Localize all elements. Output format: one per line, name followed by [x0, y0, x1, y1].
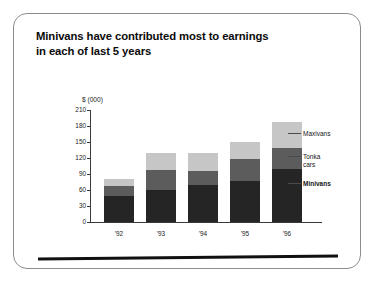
y-tick-label: 0: [64, 219, 86, 225]
bar-segment-maxivans: [272, 122, 302, 149]
stacked-bar-chart: $ (000) 2101801501209060300 '92'93'94'95…: [60, 96, 360, 236]
bar-94: [188, 153, 218, 222]
legend-label-minivans: Minivans: [303, 180, 331, 188]
x-tick-label: '94: [188, 230, 218, 237]
bar-segment-maxivans: [230, 142, 260, 159]
bar-segment-tonka-cars: [104, 186, 134, 197]
legend-leader-tonka: [288, 156, 301, 157]
y-tick-mark: [87, 142, 90, 143]
bar-segment-maxivans: [146, 153, 176, 170]
x-tick-label: '93: [146, 230, 176, 237]
bar-segment-tonka-cars: [272, 148, 302, 168]
bar-95: [230, 142, 260, 222]
y-tick-label: 90: [64, 171, 86, 177]
legend-tonka-line-2: cars: [303, 161, 315, 168]
bar-segment-minivans: [230, 181, 260, 222]
y-tick-mark: [87, 206, 90, 207]
legend-tonka-line-1: Tonka: [303, 153, 320, 160]
legend-leader-minivans: [288, 183, 301, 184]
plot-area: 2101801501209060300 '92'93'94'95'96: [90, 110, 320, 222]
y-tick-mark: [87, 190, 90, 191]
bar-segment-tonka-cars: [146, 170, 176, 190]
y-tick-mark: [87, 222, 90, 223]
legend-label-tonka: Tonka cars: [303, 153, 320, 169]
y-tick-label: 210: [64, 107, 86, 113]
page-title: Minivans have contributed most to earnin…: [36, 29, 336, 58]
y-tick-mark: [87, 110, 90, 111]
legend-leader-maxivans: [288, 133, 301, 134]
x-axis-line: [90, 222, 322, 223]
y-tick-label: 180: [64, 123, 86, 129]
bar-segment-maxivans: [188, 153, 218, 172]
y-tick-mark: [87, 126, 90, 127]
y-tick-label: 150: [64, 139, 86, 145]
title-line-1: Minivans have contributed most to earnin…: [36, 29, 336, 44]
bar-segment-tonka-cars: [230, 159, 260, 181]
bar-segment-minivans: [104, 196, 134, 222]
x-tick-label: '95: [230, 230, 260, 237]
x-tick-label: '92: [104, 230, 134, 237]
bar-segment-minivans: [188, 185, 218, 222]
y-tick-label: 120: [64, 155, 86, 161]
title-line-2: in each of last 5 years: [36, 44, 336, 59]
bar-segment-tonka-cars: [188, 171, 218, 184]
bar-93: [146, 153, 176, 222]
y-axis-line: [90, 110, 91, 222]
bar-96: [272, 122, 302, 222]
bar-segment-minivans: [146, 190, 176, 222]
y-axis-unit-label: $ (000): [82, 96, 103, 103]
y-tick-mark: [87, 158, 90, 159]
legend-label-maxivans: Maxivans: [303, 130, 330, 138]
x-tick-label: '96: [272, 230, 302, 237]
bar-segment-minivans: [272, 169, 302, 222]
y-tick-label: 30: [64, 203, 86, 209]
y-tick-label: 60: [64, 187, 86, 193]
bar-92: [104, 179, 134, 222]
y-tick-mark: [87, 174, 90, 175]
